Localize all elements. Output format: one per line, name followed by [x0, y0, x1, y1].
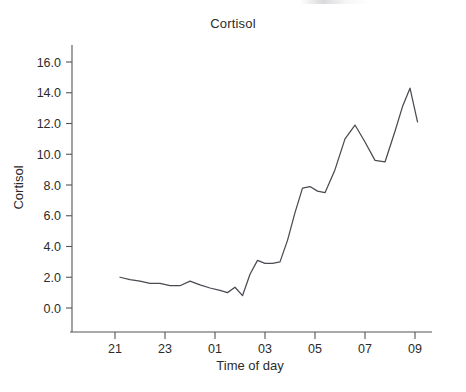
y-tick-label: 6.0: [44, 209, 61, 223]
x-tick-label: 05: [308, 342, 322, 356]
y-tick-label: 16.0: [37, 56, 61, 70]
y-tick-label: 8.0: [44, 179, 61, 193]
y-tick-label: 14.0: [37, 86, 61, 100]
y-tick-label: 10.0: [37, 148, 61, 162]
y-tick-label: 4.0: [44, 240, 61, 254]
chart-figure: Cortisol Cortisol Time of day 0.02.04.06…: [0, 0, 466, 392]
x-tick-label: 09: [408, 342, 422, 356]
x-tick-group: 21230103050709: [108, 332, 422, 356]
plot-area: 0.02.04.06.08.010.012.014.016.0 21230103…: [0, 0, 466, 392]
y-axis: 0.02.04.06.08.010.012.014.016.0: [37, 45, 72, 332]
x-tick-label: 01: [208, 342, 222, 356]
x-axis: 21230103050709: [70, 332, 432, 356]
x-tick-label: 07: [358, 342, 372, 356]
y-tick-group: 0.02.04.06.08.010.012.014.016.0: [37, 56, 72, 316]
y-tick-label: 12.0: [37, 117, 61, 131]
x-tick-label: 21: [108, 342, 122, 356]
data-line-cortisol: [120, 88, 418, 296]
y-tick-label: 0.0: [44, 302, 61, 316]
x-tick-label: 23: [158, 342, 172, 356]
data-series-group: [120, 88, 418, 296]
y-tick-label: 2.0: [44, 271, 61, 285]
x-tick-label: 03: [258, 342, 272, 356]
